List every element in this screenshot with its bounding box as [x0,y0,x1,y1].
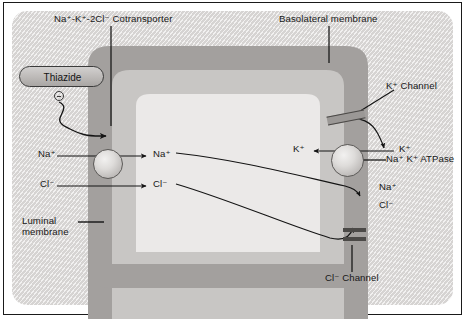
ion-label-na-baso-outside: Na⁺ [379,181,397,192]
ion-label-cl-baso-outside: Cl⁻ [379,199,393,210]
label-luminal-membrane-line1: Luminal [22,215,56,226]
label-na-k-atpase: Na⁺ K⁺ ATPase [386,153,454,164]
ion-label-na-lumen-outside: Na⁺ [38,148,56,159]
label-basolateral-membrane: Basolateral membrane [279,13,378,24]
na-k-atpase-sphere [331,144,364,177]
thiazide-pill: Thiazide [19,66,104,87]
label-k-channel: K⁺ Channel [386,80,437,91]
inhibition-minus-icon [54,91,64,101]
label-luminal-membrane-line2: membrane [22,226,69,237]
label-cl-channel: Cl⁻ Channel [325,272,379,283]
label-cotransporter: Na⁺-K⁺-2Cl⁻ Cotransporter [54,13,172,24]
thiazide-label: Thiazide [20,67,105,88]
ion-label-cl-lumen-outside: Cl⁻ [40,178,54,189]
label-luminal-membrane: Luminal membrane [22,215,69,238]
ion-label-na-lumen-inside: Na⁺ [153,148,171,159]
diagram-figure: Thiazide Na⁺-K⁺-2Cl⁻ Cotransporter Basol… [0,0,466,319]
ion-label-k-baso-outside: K⁺ [399,143,411,154]
ion-label-k-baso-inside: K⁺ [293,143,305,154]
cotransporter-sphere [93,149,123,179]
ion-label-cl-lumen-inside: Cl⁻ [153,178,167,189]
cl-channel-bar [343,228,366,241]
